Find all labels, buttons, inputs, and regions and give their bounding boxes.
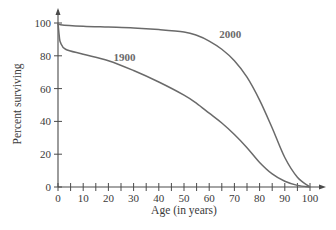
x-tick-label: 70 (229, 192, 241, 204)
y-tick-label: 20 (40, 148, 52, 160)
x-tick-label: 0 (55, 192, 61, 204)
x-axis-arrow-icon (319, 185, 326, 190)
survival-chart: 0102030405060708090100020406080100 19002… (0, 0, 336, 230)
x-tick-label: 40 (153, 192, 165, 204)
x-tick-label: 60 (204, 192, 216, 204)
series-2000-line (58, 23, 310, 187)
x-tick-label: 100 (302, 192, 319, 204)
x-tick-label: 90 (279, 192, 291, 204)
x-tick-label: 20 (103, 192, 115, 204)
series-1900-line (58, 23, 310, 187)
series-1900-label: 1900 (113, 51, 136, 63)
y-axis-arrow-icon (56, 8, 61, 15)
series-2000-label: 2000 (219, 28, 242, 40)
x-tick-label: 80 (254, 192, 266, 204)
x-tick-label: 30 (128, 192, 140, 204)
y-tick-label: 80 (40, 50, 52, 62)
x-tick-label: 50 (179, 192, 191, 204)
y-tick-label: 40 (40, 115, 52, 127)
y-tick-label: 0 (46, 181, 52, 193)
y-axis-title: Percent surviving (11, 63, 24, 144)
y-tick-label: 100 (35, 17, 52, 29)
data-series: 19002000 (58, 23, 310, 187)
x-axis-title: Age (in years) (151, 204, 217, 217)
x-tick-label: 10 (78, 192, 90, 204)
y-tick-label: 60 (40, 83, 52, 95)
